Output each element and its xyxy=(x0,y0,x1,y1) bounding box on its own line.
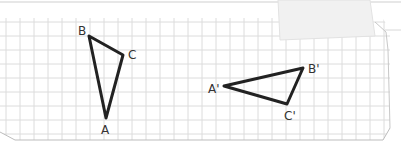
vertex-label: A' xyxy=(208,82,220,96)
vertex-label: C' xyxy=(284,109,296,123)
figure-canvas: ABCA'B'C' xyxy=(0,0,401,145)
vertex-label: B' xyxy=(308,62,320,76)
vertex-label: A xyxy=(101,123,110,137)
vertex-label: C xyxy=(128,48,136,62)
tape-strip xyxy=(278,0,375,40)
graph-paper-figure: ABCA'B'C' xyxy=(0,0,401,145)
vertex-label: B xyxy=(78,24,86,38)
